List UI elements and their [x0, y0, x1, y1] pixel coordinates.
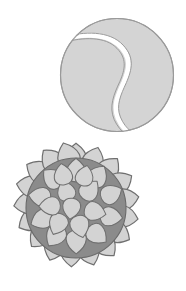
- spiky-ball-svg: [0, 138, 186, 291]
- spiky-ball: [0, 138, 186, 291]
- tennis-ball: [0, 0, 186, 145]
- tennis-ball-svg: [0, 0, 186, 145]
- illustration-canvas: [0, 0, 186, 291]
- spiky-ball-group: [12, 139, 141, 269]
